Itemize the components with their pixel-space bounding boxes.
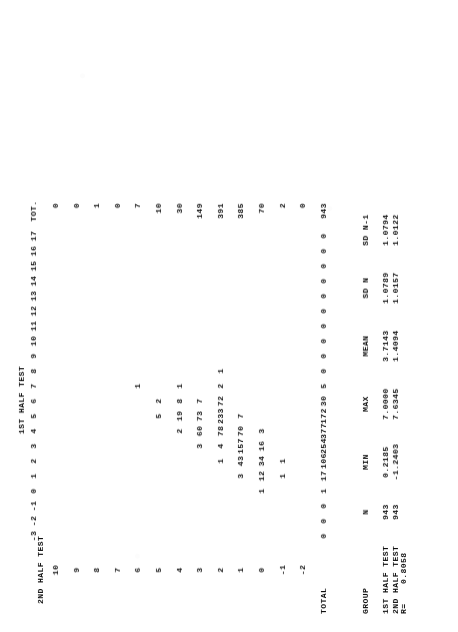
row-header: 4 [176, 567, 184, 572]
column-header: -2 [30, 516, 38, 527]
stats-header: MEAN [362, 335, 370, 356]
data-cell: 233 [217, 408, 225, 424]
data-cell: 3 [196, 443, 204, 448]
data-cell: 34 [258, 456, 266, 467]
row-total: 385 [237, 203, 245, 219]
row-header: 5 [155, 567, 163, 572]
stats-n: 943 [391, 504, 399, 520]
row-header: 7 [114, 567, 122, 572]
stats-header: SD N-1 [362, 214, 370, 246]
column-total: 377 [320, 423, 328, 439]
data-cell: 73 [196, 411, 204, 422]
row-total: 149 [196, 203, 204, 219]
rotated-printout-wrapper: 1ST HALF TEST -3-2-101234567891011121314… [0, 0, 458, 632]
column-header: 1 [30, 473, 38, 478]
row-header: -1 [279, 565, 287, 576]
row-total: 0 [52, 203, 60, 208]
data-cell: 16 [258, 441, 266, 452]
correlation-label: R= [400, 603, 408, 614]
column-axis-title: 1ST HALF TEST [18, 366, 26, 434]
data-cell: 157 [237, 438, 245, 454]
data-cell: 5 [155, 413, 163, 418]
data-cell: 60 [196, 426, 204, 437]
grand-total-label: TOTAL [320, 588, 328, 614]
stats-header: SD N [362, 277, 370, 298]
data-cell: 70 [237, 426, 245, 437]
data-cell: 3 [258, 428, 266, 433]
column-total: 0 [320, 353, 328, 358]
row-header: 2 [217, 567, 225, 572]
stats-min: 0.2185 [382, 446, 390, 478]
column-total: 0 [320, 518, 328, 523]
data-cell: 1 [258, 488, 266, 493]
stats-sd-n: 1.0157 [391, 272, 399, 304]
data-cell: 1 [279, 458, 287, 463]
column-total: 1 [320, 488, 328, 493]
column-total: 0 [320, 248, 328, 253]
row-header: 10 [52, 565, 60, 576]
data-cell: 2 [155, 398, 163, 403]
column-header: 4 [30, 428, 38, 433]
row-header: 9 [73, 567, 81, 572]
column-total: 0 [320, 338, 328, 343]
column-header: 3 [30, 443, 38, 448]
data-cell: 1 [217, 368, 225, 373]
stats-header: N [362, 509, 370, 514]
data-cell: 19 [176, 411, 184, 422]
data-cell: 4 [217, 443, 225, 448]
row-total: 7 [134, 203, 142, 208]
stats-header: GROUP [362, 588, 370, 614]
row-total: 10 [155, 203, 163, 214]
paper-grain [0, 0, 458, 632]
data-cell: 2 [176, 428, 184, 433]
row-header: 3 [196, 567, 204, 572]
column-header: 16 [30, 246, 38, 257]
row-total: 0 [299, 203, 307, 208]
column-header: 13 [30, 291, 38, 302]
column-header: 17 [30, 231, 38, 242]
column-total: 0 [320, 278, 328, 283]
column-total: 106 [320, 453, 328, 469]
column-header: 8 [30, 368, 38, 373]
stats-header: MIN [362, 454, 370, 470]
column-total: 172 [320, 408, 328, 424]
row-header: 6 [134, 567, 142, 572]
data-cell: 7 [196, 398, 204, 403]
column-header: 11 [30, 321, 38, 332]
stats-group-label: 1ST HALF TEST [382, 546, 390, 614]
data-cell: 43 [237, 456, 245, 467]
column-total: 0 [320, 293, 328, 298]
row-axis-title: 2ND HALF TEST [37, 536, 45, 604]
row-total: 391 [217, 203, 225, 219]
column-header: 0 [30, 488, 38, 493]
column-header: 10 [30, 336, 38, 347]
column-header: 9 [30, 353, 38, 358]
data-cell: 72 [217, 396, 225, 407]
row-total: 2 [279, 203, 287, 208]
column-total: 0 [320, 308, 328, 313]
column-total: 0 [320, 368, 328, 373]
column-header: 7 [30, 383, 38, 388]
row-header: 8 [93, 567, 101, 572]
data-cell: 1 [279, 473, 287, 478]
row-header: -2 [299, 565, 307, 576]
stats-mean: 1.4094 [391, 330, 399, 362]
crosstab-printout: 1ST HALF TEST -3-2-101234567891011121314… [0, 0, 458, 632]
row-total: 30 [176, 203, 184, 214]
column-total: 30 [320, 396, 328, 407]
data-cell: 1 [134, 383, 142, 388]
column-total: 0 [320, 503, 328, 508]
stats-mean: 3.7143 [382, 330, 390, 362]
column-total: 0 [320, 233, 328, 238]
grand-total-value: 943 [320, 203, 328, 219]
stats-n: 943 [382, 504, 390, 520]
column-total: 0 [320, 263, 328, 268]
data-cell: 12 [258, 471, 266, 482]
row-header: 0 [258, 567, 266, 572]
stats-max: 7.6345 [391, 388, 399, 420]
row-total: 1 [93, 203, 101, 208]
column-header: 6 [30, 398, 38, 403]
column-header: 12 [30, 306, 38, 317]
row-total: 0 [73, 203, 81, 208]
row-header: 1 [237, 567, 245, 572]
